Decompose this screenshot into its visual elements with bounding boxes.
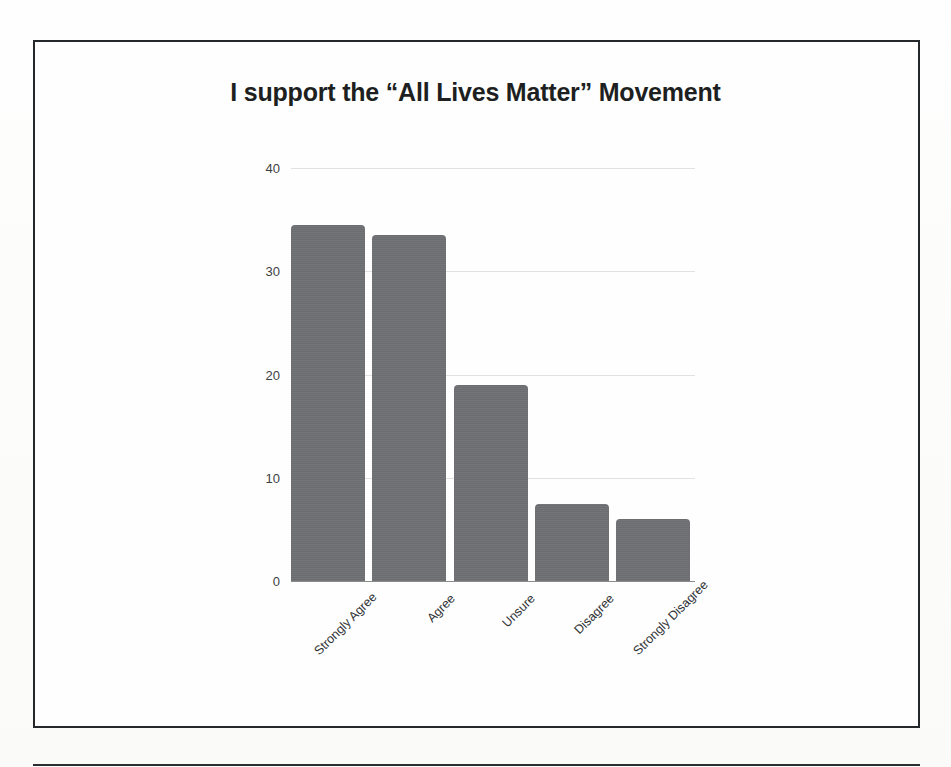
y-axis-tick-label: 40 bbox=[266, 161, 280, 176]
x-axis-label-strongly-disagree: Strongly Disagree bbox=[631, 592, 697, 658]
axis-baseline bbox=[291, 581, 695, 582]
bar-agree[interactable] bbox=[372, 235, 446, 581]
bar-chart-plot-area: 010203040 bbox=[291, 168, 690, 581]
y-axis-tick-label: 30 bbox=[266, 264, 280, 279]
bar-slot bbox=[535, 168, 609, 581]
y-axis-tick-label: 10 bbox=[266, 470, 280, 485]
x-axis-label-disagree: Disagree bbox=[551, 592, 617, 658]
bar-slot bbox=[372, 168, 446, 581]
bar-strongly-disagree[interactable] bbox=[616, 519, 690, 581]
bar-slot bbox=[291, 168, 365, 581]
bars-group bbox=[291, 168, 690, 581]
chart-title: I support the “All Lives Matter” Movemen… bbox=[0, 78, 951, 107]
bar-slot bbox=[454, 168, 528, 581]
x-axis-label-strongly-agree: Strongly Agree bbox=[312, 592, 378, 658]
y-axis-tick-label: 20 bbox=[266, 367, 280, 382]
bar-slot bbox=[616, 168, 690, 581]
x-axis-labels: Strongly AgreeAgreeUnsureDisagreeStrongl… bbox=[291, 586, 690, 696]
x-axis-label-agree: Agree bbox=[391, 592, 457, 658]
bar-strongly-agree[interactable] bbox=[291, 225, 365, 581]
bar-disagree[interactable] bbox=[535, 504, 609, 581]
bar-unsure[interactable] bbox=[454, 385, 528, 581]
x-axis-label-unsure: Unsure bbox=[471, 592, 537, 658]
y-axis-tick-label: 0 bbox=[273, 574, 280, 589]
